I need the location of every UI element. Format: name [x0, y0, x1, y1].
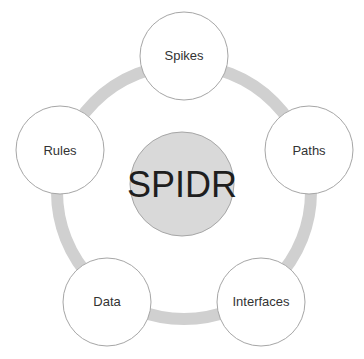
node-label: Paths: [292, 143, 326, 158]
node-data: Data: [63, 258, 151, 346]
node-label: Spikes: [164, 48, 204, 63]
node-label: Rules: [43, 143, 77, 158]
center-node: SPIDR: [127, 132, 237, 236]
spidr-cycle-diagram: SPIDR Spikes Paths Interfaces Data Rules: [0, 0, 364, 359]
node-label: Interfaces: [232, 294, 290, 309]
node-label: Data: [93, 294, 121, 309]
node-rules: Rules: [16, 106, 104, 194]
node-paths: Paths: [265, 106, 353, 194]
center-label: SPIDR: [127, 164, 237, 205]
node-interfaces: Interfaces: [217, 258, 305, 346]
node-spikes: Spikes: [140, 12, 228, 100]
